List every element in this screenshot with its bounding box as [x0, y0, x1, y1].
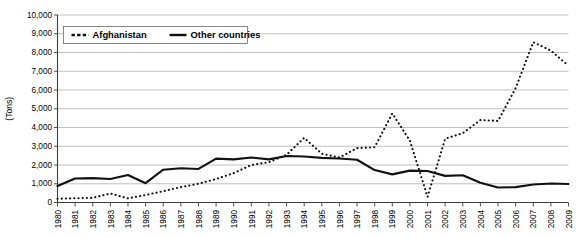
- x-axis-tick-label: 1988: [195, 210, 204, 229]
- x-axis-tick-label: 2007: [529, 210, 538, 229]
- y-axis-tick-label: 2,000: [32, 161, 53, 170]
- x-axis-tick-label: 1992: [265, 210, 274, 229]
- x-axis-tick-label: 1991: [248, 210, 257, 229]
- y-axis-tick-label: 6,000: [32, 86, 53, 95]
- y-axis-title-label: (Tons): [4, 97, 14, 121]
- x-axis-tick-label: 2003: [459, 210, 468, 229]
- x-axis-tick-label: 2004: [477, 210, 486, 229]
- x-axis-tick-label: 1989: [212, 210, 221, 229]
- x-axis-tick-label: 2009: [565, 210, 574, 229]
- x-axis-tick-label: 1986: [159, 210, 168, 229]
- y-axis-tick-label: 8,000: [32, 48, 53, 57]
- x-axis-tick-label: 1997: [353, 210, 362, 229]
- x-axis-tick-label: 1983: [107, 210, 116, 229]
- x-axis-tick-label: 1990: [230, 210, 239, 229]
- x-axis-tick-label: 1993: [283, 210, 292, 229]
- chart-canvas: 10,0009,0008,0007,0006,0005,0004,0003,00…: [0, 0, 578, 238]
- y-axis-title: (Tons): [4, 97, 14, 121]
- x-axis-tick-label: 1994: [300, 210, 309, 229]
- x-axis-tick-label: 1987: [177, 210, 186, 229]
- x-axis-tick-label: 2001: [424, 210, 433, 229]
- x-axis-tick-label: 1999: [388, 210, 397, 229]
- x-axis-tick-label: 1982: [89, 210, 98, 229]
- x-axis-tick-label: 1998: [371, 210, 380, 229]
- x-axis-tick-label: 2000: [406, 210, 415, 229]
- x-axis-tick-label: 2006: [512, 210, 521, 229]
- legend-label-afghanistan: Afghanistan: [93, 29, 147, 40]
- x-axis-tick-label: 2005: [494, 210, 503, 229]
- x-axis-tick-label: 1980: [54, 210, 63, 229]
- opium-production-line-chart: 10,0009,0008,0007,0006,0005,0004,0003,00…: [0, 0, 578, 238]
- y-axis-tick-label: 3,000: [32, 142, 53, 151]
- x-axis-tick-label: 1996: [336, 210, 345, 229]
- y-axis-tick-label: 1,000: [32, 179, 53, 188]
- x-axis-tick-label: 1995: [318, 210, 327, 229]
- y-axis-tick-label: 5,000: [32, 104, 53, 113]
- x-axis-tick-label: 1981: [71, 210, 80, 229]
- y-axis-tick-label: 7,000: [32, 67, 53, 76]
- y-axis-tick-label: 4,000: [32, 123, 53, 132]
- legend-label-other-countries: Other countries: [191, 29, 261, 40]
- y-axis-tick-label: 0: [47, 198, 52, 207]
- y-axis-tick-label: 10,000: [27, 11, 52, 20]
- y-axis-tick-label: 9,000: [32, 29, 53, 38]
- x-axis-tick-label: 2008: [547, 210, 556, 229]
- x-axis-tick-label: 2002: [441, 210, 450, 229]
- x-axis-tick-label: 1984: [124, 210, 133, 229]
- chart-legend: AfghanistanOther countries: [64, 27, 261, 44]
- x-axis-tick-label: 1985: [142, 210, 151, 229]
